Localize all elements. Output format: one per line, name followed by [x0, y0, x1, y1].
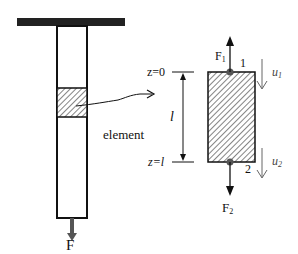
z-bottom-label: z=l: [148, 156, 164, 168]
node-1-label: 1: [240, 57, 246, 69]
node-2-label: 2: [245, 163, 251, 175]
force-2-subscript: 2: [229, 207, 233, 216]
element-label: element: [103, 128, 144, 141]
displacement-2-arrow-icon: [257, 148, 267, 178]
force-2-arrow-icon: [226, 162, 234, 196]
load-label: F: [66, 238, 74, 253]
displacement-1-label: u1: [272, 66, 282, 80]
support-bar: [17, 18, 125, 26]
displacement-1-subscript: 1: [278, 71, 282, 80]
diagram-canvas: F element z=0 z=l l 1 2 F1 F2 u1 u2: [0, 0, 298, 254]
displacement-2-subscript: 2: [278, 160, 282, 169]
diagram-graphics: [0, 0, 298, 254]
bar-element-highlight: [57, 88, 87, 117]
length-dimension-arrow: [180, 73, 186, 161]
force-1-arrow-icon: [226, 36, 234, 72]
force-1-subscript: 1: [222, 55, 226, 64]
z-top-label: z=0: [147, 66, 165, 78]
force-1-symbol: F: [215, 49, 222, 63]
bar-body: [57, 26, 87, 218]
displacement-1-arrow-icon: [257, 59, 267, 89]
length-label: l: [170, 110, 174, 124]
element-rect: [208, 72, 255, 162]
force-2-label: F2: [222, 201, 233, 216]
displacement-2-label: u2: [272, 155, 282, 169]
force-1-label: F1: [215, 50, 226, 64]
